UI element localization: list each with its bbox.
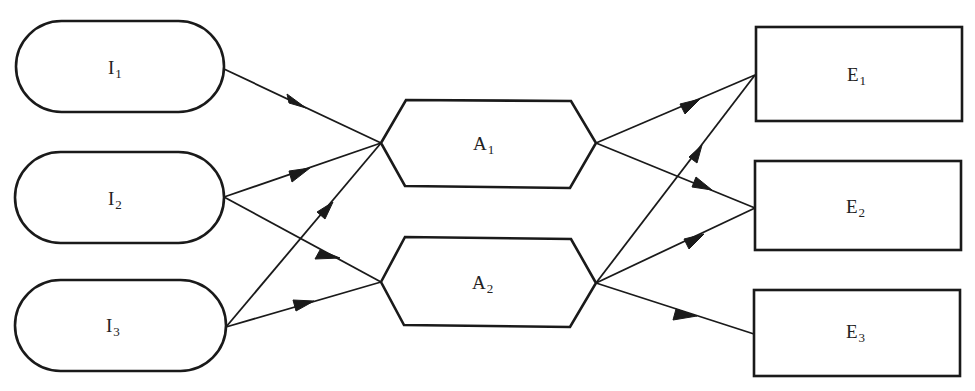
arrowhead-icon bbox=[293, 300, 314, 311]
node-a1: A1 bbox=[381, 100, 596, 188]
arrowhead-icon bbox=[287, 94, 306, 108]
arrowhead-icon bbox=[289, 168, 310, 182]
arrowhead-icon bbox=[684, 234, 704, 249]
node-i3-shape bbox=[15, 280, 226, 371]
edge-a2-e1 bbox=[596, 75, 755, 283]
node-e1: E1 bbox=[756, 27, 962, 121]
edge-i2-a2 bbox=[224, 197, 381, 282]
flow-diagram: I1 I2 I3 A1 A2 E1 E2 bbox=[0, 0, 975, 391]
node-e3: E3 bbox=[754, 290, 960, 376]
node-i1: I1 bbox=[16, 21, 224, 112]
arrowhead-icon bbox=[673, 309, 697, 320]
arrowhead-icon bbox=[692, 177, 712, 190]
edge-a2-e3 bbox=[596, 283, 754, 334]
arrowhead-icon bbox=[680, 99, 700, 114]
arrowhead-icon bbox=[315, 250, 340, 259]
node-i3: I3 bbox=[15, 280, 226, 371]
edge-a2-e2 bbox=[596, 208, 755, 283]
edge-a1-e2 bbox=[596, 143, 755, 208]
node-i2: I2 bbox=[15, 152, 224, 243]
node-a2: A2 bbox=[381, 237, 596, 327]
edge-a1-e1 bbox=[596, 75, 755, 143]
node-e2: E2 bbox=[755, 161, 961, 250]
arrowhead-icon bbox=[689, 145, 702, 163]
